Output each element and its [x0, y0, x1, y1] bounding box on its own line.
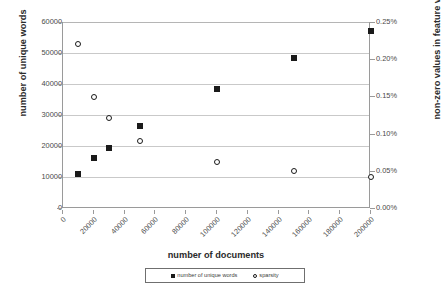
- y-axis-left-tick: [57, 22, 62, 23]
- y-axis-left-tick-label: 10000: [2, 173, 62, 181]
- data-point: [91, 155, 97, 161]
- legend-label: sparsity: [259, 272, 278, 279]
- y-axis-left-tick-label: 20000: [2, 142, 62, 150]
- data-point: [368, 28, 374, 34]
- gridline: [63, 22, 369, 23]
- gridline: [63, 53, 369, 54]
- data-point: [137, 138, 143, 144]
- y-axis-left-tick: [57, 84, 62, 85]
- y-axis-right-tick: [370, 171, 375, 172]
- x-axis-tick: [124, 210, 125, 214]
- y-axis-left-tick-label: 50000: [2, 49, 62, 57]
- y-axis-left-tick: [57, 177, 62, 178]
- y-axis-right-title: non-zero values in feature vectors: [432, 0, 442, 145]
- plot-area: [62, 22, 370, 208]
- y-axis-left-tick: [57, 115, 62, 116]
- y-axis-left-tick: [57, 208, 62, 209]
- x-axis-tick: [247, 210, 248, 214]
- y-axis-right-tick: [370, 59, 375, 60]
- y-axis-right-tick-label: 0.00%: [376, 204, 416, 212]
- data-point: [291, 55, 297, 61]
- y-axis-right-tick: [370, 208, 375, 209]
- x-axis-tick: [62, 210, 63, 214]
- legend-item-sparsity[interactable]: sparsity: [253, 272, 278, 279]
- x-axis-tick: [154, 210, 155, 214]
- gridline: [63, 177, 369, 178]
- y-axis-right-tick-label: 0.15%: [376, 92, 416, 100]
- data-point: [75, 41, 81, 47]
- y-axis-right-tick-label: 0.10%: [376, 130, 416, 138]
- y-axis-right-tick: [370, 134, 375, 135]
- data-point: [75, 171, 81, 177]
- y-axis-right-tick-label: 0.05%: [376, 167, 416, 175]
- y-axis-left-tick-label: 0: [2, 204, 62, 212]
- x-axis-tick: [308, 210, 309, 214]
- y-axis-right-tick: [370, 96, 375, 97]
- chart-legend: number of unique words sparsity: [145, 268, 305, 283]
- data-point: [214, 86, 220, 92]
- x-axis-tick: [185, 210, 186, 214]
- data-point: [368, 174, 374, 180]
- data-point: [106, 115, 112, 121]
- y-axis-left-tick-label: 40000: [2, 80, 62, 88]
- x-axis-tick: [278, 210, 279, 214]
- data-point: [291, 168, 297, 174]
- legend-item-number-of-unique-words[interactable]: number of unique words: [171, 272, 237, 279]
- data-point: [214, 159, 220, 165]
- y-axis-right-tick-label: 0.25%: [376, 18, 416, 26]
- open-circle-marker-icon: [253, 274, 257, 278]
- y-axis-left-tick: [57, 146, 62, 147]
- legend-label: number of unique words: [177, 272, 237, 279]
- data-point: [91, 94, 97, 100]
- data-point: [106, 145, 112, 151]
- x-axis-tick: [93, 210, 94, 214]
- x-axis-tick: [370, 210, 371, 214]
- y-axis-left-tick-label: 30000: [2, 111, 62, 119]
- x-axis-tick: [216, 210, 217, 214]
- x-axis-tick: [339, 210, 340, 214]
- y-axis-left-tick: [57, 53, 62, 54]
- y-axis-left-tick-label: 60000: [2, 18, 62, 26]
- y-axis-right-tick: [370, 22, 375, 23]
- y-axis-right-tick-label: 0.20%: [376, 55, 416, 63]
- filled-square-marker-icon: [171, 274, 175, 278]
- data-point: [137, 123, 143, 129]
